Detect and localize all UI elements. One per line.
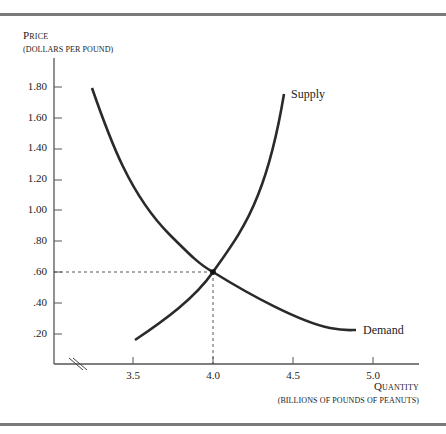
- chart-plot: [0, 0, 446, 434]
- supply-label: Supply: [291, 87, 325, 102]
- equilibrium-guides: [54, 272, 213, 364]
- demand-label: Demand: [363, 323, 404, 338]
- y-ticks: [54, 87, 62, 334]
- demand-curve: [92, 88, 356, 330]
- equilibrium-point: [210, 269, 216, 275]
- x-ticks: [133, 357, 373, 364]
- supply-curve: [135, 94, 284, 340]
